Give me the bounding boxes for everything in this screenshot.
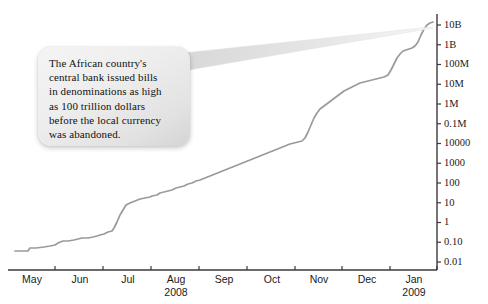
y-tick-label: 10B (444, 19, 462, 30)
y-tick-label: 1 (444, 216, 449, 227)
chart-plot-area: 10B1B100M10M1M0.1M1000010001001010.100.0… (0, 0, 488, 304)
x-tick-label: Jan (406, 273, 423, 285)
y-tick-label: 0.01 (444, 256, 462, 267)
y-tick-label: 10M (444, 78, 465, 89)
x-tick-label: Jul (121, 273, 134, 285)
x-axis-year-labels: 20082009 (164, 286, 426, 298)
callout-text: The African country's central bank issue… (49, 56, 180, 141)
x-tick-label: Sep (215, 273, 234, 285)
callout-bubble: The African country's central bank issue… (38, 47, 190, 146)
x-tick-label: Dec (358, 273, 377, 285)
y-axis-ticks: 10B1B100M10M1M0.1M1000010001001010.100.0… (437, 19, 470, 267)
x-tick-label: Oct (264, 273, 280, 285)
y-tick-label: 1B (444, 39, 456, 50)
x-tick-label: Nov (310, 273, 329, 285)
y-tick-label: 0.10 (444, 236, 462, 247)
x-axis-year-label: 2008 (164, 286, 188, 298)
x-axis-ticks: MayJunJulAugSepOctNovDecJan (22, 266, 437, 285)
x-tick-label: Aug (167, 273, 186, 285)
chart-figure: 10B1B100M10M1M0.1M1000010001001010.100.0… (0, 0, 488, 304)
y-tick-label: 10000 (444, 137, 470, 148)
y-tick-label: 100M (444, 58, 470, 69)
x-axis-year-label: 2009 (402, 286, 426, 298)
y-tick-label: 1000 (444, 157, 465, 168)
y-tick-label: 1M (444, 98, 459, 109)
y-tick-label: 100 (444, 177, 460, 188)
y-tick-label: 0.1M (444, 118, 467, 129)
y-tick-label: 10 (444, 197, 455, 208)
x-tick-label: May (22, 273, 43, 285)
x-tick-label: Jun (72, 273, 89, 285)
